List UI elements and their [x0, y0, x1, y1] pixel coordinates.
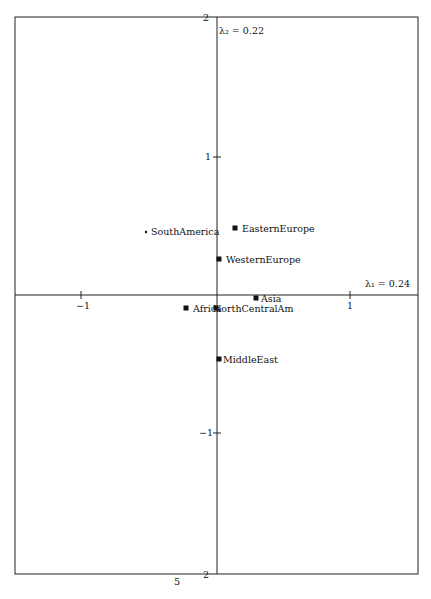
point-label: NorthCentralAm	[213, 303, 293, 314]
point-label: MiddleEast	[223, 354, 278, 365]
correspondence-plot: −1 1 1 −1 2 2 λ₂ = 0.22 λ₁ = 0.24 SouthA…	[0, 0, 431, 599]
square-marker-icon	[217, 357, 222, 362]
square-marker-icon	[217, 257, 222, 262]
square-marker-icon	[254, 296, 259, 301]
point-easterneurope: EasternEurope	[233, 223, 315, 234]
point-southamerica: SouthAmerica	[145, 226, 220, 237]
ytick-label-minus1: −1	[199, 427, 213, 438]
ytick-label-bottom: 2	[203, 569, 209, 580]
dot-marker-icon	[145, 231, 147, 233]
ytick-label-1: 1	[205, 151, 211, 162]
point-middleeast: MiddleEast	[217, 354, 279, 365]
point-label: EasternEurope	[242, 223, 315, 234]
square-marker-icon	[233, 226, 238, 231]
point-label: SouthAmerica	[151, 226, 220, 237]
page-number: 5	[174, 576, 180, 587]
lambda2-label: λ₂ = 0.22	[219, 25, 264, 36]
ytick-label-top: 2	[203, 12, 209, 23]
lambda1-label: λ₁ = 0.24	[365, 278, 410, 289]
xtick-label-1: 1	[347, 300, 353, 311]
xtick-label-minus1: −1	[76, 300, 90, 311]
point-northcentralam: NorthCentralAm	[213, 303, 293, 314]
square-marker-icon	[184, 306, 189, 311]
point-label: WesternEurope	[226, 254, 301, 265]
point-westerneurope: WesternEurope	[217, 254, 301, 265]
